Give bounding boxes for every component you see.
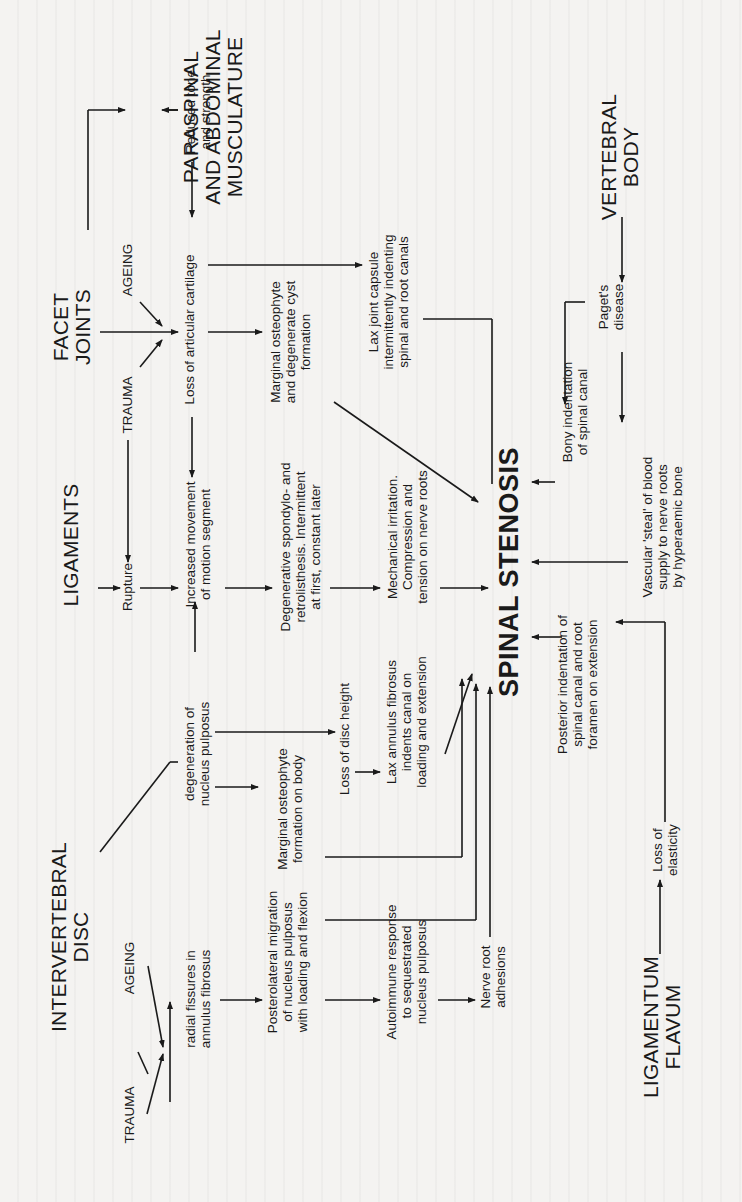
node-loss-disc-height: Loss of disc height xyxy=(337,674,352,804)
source-ligamentum-flavum: LIGAMENTUM FLAVUM xyxy=(640,952,684,1102)
cause-trauma-facet: TRAUMA xyxy=(120,373,135,437)
node-vascular-steal: Vascular 'steal' of blood supply to nerv… xyxy=(640,432,685,622)
node-rupture: Rupture xyxy=(120,552,135,622)
node-posterior-indentation: Posterior indentation of spinal canal an… xyxy=(555,597,600,772)
node-marginal-osteophyte-body: Marginal osteophyte formation on body xyxy=(275,734,305,884)
node-increased-movement: Increased movement of motion segment xyxy=(183,472,213,617)
node-nerve-root-adhesions: Nerve root adhesions xyxy=(478,932,508,1022)
node-loss-articular-cartilage: Loss of articular cartilage xyxy=(182,242,197,417)
node-degeneration-nucleus-pulposus: degeneration of nucleus pulposus xyxy=(182,694,212,814)
cause-trauma-disc: TRAUMA xyxy=(122,1083,137,1147)
node-posterolateral-migration: Posterolateral migration of nucleus pulp… xyxy=(265,862,310,1062)
node-loss-of-elasticity: Loss of elasticity xyxy=(650,820,680,880)
cause-ageing-disc: AGEING xyxy=(122,936,137,1000)
outcome-spinal-stenosis: SPINAL STENOSIS xyxy=(494,457,524,697)
node-mechanical-irritation: Mechanical irritation. Compression and t… xyxy=(385,447,430,627)
node-reduced-tone-strength: Reduced tone and strength xyxy=(183,62,213,162)
node-lax-annulus-fibrosus: Lax annulus fibrosus indents canal on lo… xyxy=(384,642,429,802)
source-intervertebral-disc: INTERVERTEBRAL DISC xyxy=(48,837,92,1037)
node-degenerative-spondylolisthesis: Degenerative spondylo- and retrolisthesi… xyxy=(278,447,323,647)
node-pagets-disease: Paget's disease xyxy=(596,272,626,342)
cause-ageing-facet: AGEING xyxy=(120,238,135,302)
source-vertebral-body: VERTEBRAL BODY xyxy=(598,92,642,222)
node-radial-fissures: radial fissures in annulus fibrosus xyxy=(183,914,213,1084)
node-bony-indentation: Bony indentation of spinal canal xyxy=(560,352,590,472)
source-facet-joints: FACET JOINTS xyxy=(50,282,94,372)
node-autoimmune-response: Autoimmune response to sequestrated nucl… xyxy=(384,882,429,1062)
spinal-stenosis-flowchart: INTERVERTEBRAL DISC LIGAMENTS FACET JOIN… xyxy=(0,0,742,1202)
source-ligaments: LIGAMENTS xyxy=(60,480,82,610)
node-marginal-osteophyte-cyst: Marginal osteophyte and degenerate cyst … xyxy=(268,262,313,422)
node-lax-joint-capsule: Lax joint capsule intermittently indenti… xyxy=(366,217,411,387)
